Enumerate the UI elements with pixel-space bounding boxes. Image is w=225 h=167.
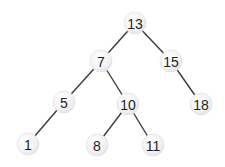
tree-node-13: 13 [124,12,146,34]
tree-diagram: 13715510181811 [0,0,225,167]
node-label: 10 [120,97,136,113]
tree-node-18: 18 [190,93,212,115]
tree-node-10: 10 [117,93,139,115]
tree-node-7: 7 [90,50,112,72]
tree-nodes: 13715510181811 [17,12,212,156]
tree-node-8: 8 [86,134,108,156]
node-label: 1 [24,137,32,153]
node-label: 18 [193,97,209,113]
node-label: 7 [97,54,105,70]
node-label: 5 [60,95,68,111]
tree-node-5: 5 [53,91,75,113]
node-label: 8 [93,138,101,154]
node-label: 13 [127,16,143,32]
tree-edges [28,23,201,145]
tree-node-1: 1 [17,133,39,155]
tree-node-11: 11 [142,134,164,156]
node-label: 15 [163,54,179,70]
tree-node-15: 15 [160,50,182,72]
node-label: 11 [146,138,161,154]
tree-canvas: 13715510181811 [0,0,225,167]
